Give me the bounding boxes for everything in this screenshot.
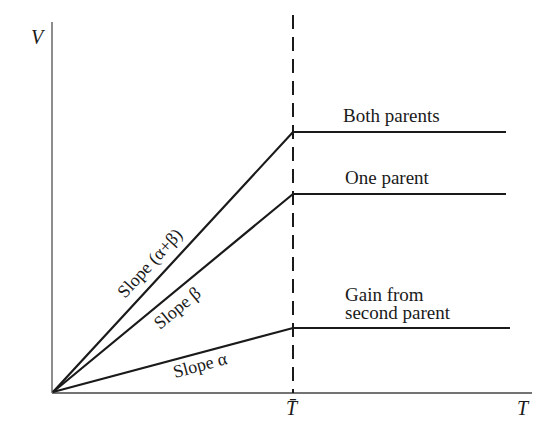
label-gain-line2: second parent — [345, 302, 451, 323]
diagram-canvas: V T T̄ Both parents One parent Gain from… — [0, 0, 558, 443]
label-both-parents: Both parents — [343, 105, 440, 126]
curve-gain-second-parent — [53, 328, 510, 392]
curve-both-parents — [53, 132, 506, 392]
x-axis-label: T — [517, 397, 530, 419]
t-bar-label: T̄ — [286, 397, 299, 419]
diagram-svg: V T T̄ Both parents One parent Gain from… — [0, 0, 558, 443]
label-one-parent: One parent — [345, 167, 430, 188]
y-axis-label: V — [31, 26, 46, 48]
